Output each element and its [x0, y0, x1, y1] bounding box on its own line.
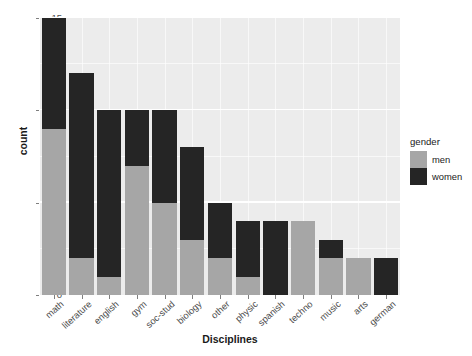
bar-biology[interactable]	[180, 147, 204, 295]
bar-german[interactable]	[374, 258, 398, 295]
legend-swatch-men	[410, 151, 427, 168]
x-tick-mark	[303, 295, 304, 299]
x-tick-mark	[248, 295, 249, 299]
bar-series-group	[40, 18, 400, 295]
legend-label-men: men	[432, 154, 450, 165]
x-tick-mark	[192, 295, 193, 299]
bar-segment-techno-men[interactable]	[291, 221, 315, 295]
legend: gender menwomen	[410, 136, 472, 185]
bar-segment-soc-stud-men[interactable]	[152, 203, 176, 295]
x-tick-mark	[137, 295, 138, 299]
bar-physic[interactable]	[236, 221, 260, 295]
bar-segment-other-men[interactable]	[208, 258, 232, 295]
legend-swatch-women	[410, 168, 427, 185]
bar-segment-english-men[interactable]	[97, 277, 121, 295]
legend-items: menwomen	[410, 151, 472, 185]
legend-item-women[interactable]: women	[410, 168, 472, 185]
x-tick-mark	[358, 295, 359, 299]
bar-segment-math-women[interactable]	[42, 18, 66, 129]
legend-title: gender	[410, 136, 472, 147]
bar-segment-gym-men[interactable]	[125, 166, 149, 295]
bar-segment-soc-stud-women[interactable]	[152, 110, 176, 202]
bar-arts[interactable]	[346, 258, 370, 295]
chart-figure: count 051015 mathliteratureenglishgymsoc…	[0, 0, 472, 356]
x-tick-mark	[331, 295, 332, 299]
bar-segment-physic-women[interactable]	[236, 221, 260, 276]
bar-soc-stud[interactable]	[152, 110, 176, 295]
bar-segment-biology-men[interactable]	[180, 240, 204, 295]
legend-label-women: women	[432, 171, 462, 182]
bar-segment-other-women[interactable]	[208, 203, 232, 258]
bar-segment-arts-men[interactable]	[346, 258, 370, 295]
bar-techno[interactable]	[291, 221, 315, 295]
bar-segment-gym-women[interactable]	[125, 110, 149, 165]
bar-math[interactable]	[42, 18, 66, 295]
bar-segment-music-women[interactable]	[319, 240, 343, 258]
bar-segment-literature-men[interactable]	[69, 258, 93, 295]
bar-music[interactable]	[319, 240, 343, 295]
bar-segment-biology-women[interactable]	[180, 147, 204, 239]
x-axis-title: Disciplines	[130, 333, 330, 345]
bar-other[interactable]	[208, 203, 232, 295]
legend-item-men[interactable]: men	[410, 151, 472, 168]
y-tick-mark	[36, 295, 40, 296]
x-tick-mark	[220, 295, 221, 299]
y-tick-mark	[36, 203, 40, 204]
y-tick-mark	[36, 18, 40, 19]
bar-segment-music-men[interactable]	[319, 258, 343, 295]
plot-panel	[40, 18, 400, 295]
bar-segment-english-women[interactable]	[97, 110, 121, 276]
bar-gym[interactable]	[125, 110, 149, 295]
x-tick-mark	[54, 295, 55, 299]
x-tick-mark	[165, 295, 166, 299]
bar-literature[interactable]	[69, 73, 93, 295]
x-tick-mark	[386, 295, 387, 299]
bar-spanish[interactable]	[263, 221, 287, 295]
bar-segment-spanish-women[interactable]	[263, 221, 287, 295]
x-tick-mark	[275, 295, 276, 299]
x-tick-mark	[109, 295, 110, 299]
bar-english[interactable]	[97, 110, 121, 295]
bar-segment-german-women[interactable]	[374, 258, 398, 295]
bar-segment-physic-men[interactable]	[236, 277, 260, 295]
bar-segment-literature-women[interactable]	[69, 73, 93, 258]
y-tick-mark	[36, 110, 40, 111]
x-tick-mark	[82, 295, 83, 299]
bar-segment-math-men[interactable]	[42, 129, 66, 295]
